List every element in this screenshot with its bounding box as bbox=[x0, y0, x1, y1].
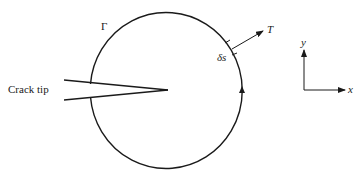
traction-label: T bbox=[267, 24, 273, 35]
contour-direction-arrow-icon bbox=[239, 86, 245, 93]
crack-upper-face bbox=[64, 80, 168, 90]
crack-tip-label: Crack tip bbox=[8, 84, 49, 95]
arc-element-label: δs bbox=[217, 52, 226, 63]
contour-gamma-label: Γ bbox=[101, 21, 107, 32]
traction-arrow bbox=[232, 31, 263, 49]
crack-lower-face bbox=[64, 90, 168, 100]
diagram-svg bbox=[0, 0, 362, 177]
diagram-canvas: Crack tip Γ δs T y x bbox=[0, 0, 362, 177]
x-axis-label: x bbox=[348, 84, 353, 95]
y-axis-label: y bbox=[301, 37, 306, 48]
